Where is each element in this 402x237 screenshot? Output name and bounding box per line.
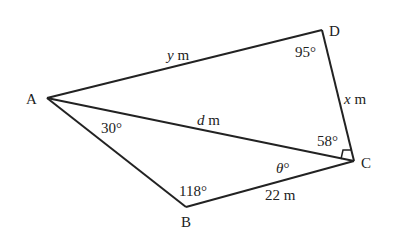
side-label-x: x m [343, 91, 366, 107]
angle-label-DCA: 58° [317, 133, 338, 149]
side-label-d: d m [197, 112, 220, 128]
angle-label-B: 118° [179, 183, 207, 199]
quadrilateral-diagram: A D C B y m x m d m 22 m 95° 58° 30° 118… [0, 0, 402, 237]
vertex-label-B: B [181, 214, 191, 230]
side-label-y: y m [165, 47, 189, 63]
side-AD [47, 30, 322, 98]
side-AB [47, 98, 186, 207]
angle-label-BAC: 30° [101, 120, 122, 136]
diagonal-AC [47, 98, 354, 161]
angle-label-D: 95° [295, 44, 316, 60]
side-label-bc: 22 m [265, 187, 296, 203]
vertex-label-D: D [329, 23, 340, 39]
angle-label-theta: θ° [276, 160, 289, 176]
vertex-label-A: A [26, 91, 37, 107]
vertex-label-C: C [361, 155, 371, 171]
